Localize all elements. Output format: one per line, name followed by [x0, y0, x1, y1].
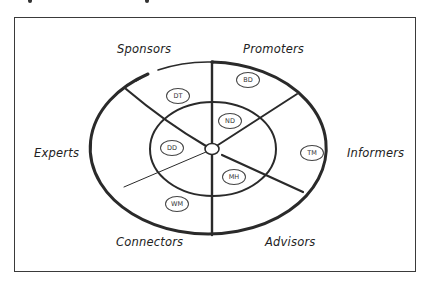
segment-label-experts: Experts [34, 148, 79, 160]
diagram-canvas: Sponsors Promoters Informers Advisors Co… [0, 0, 432, 290]
person-tag-tm: TM [300, 145, 324, 161]
outer-ring-thin-arc [158, 62, 212, 70]
center-hub [205, 144, 219, 155]
segment-label-sponsors: Sponsors [117, 44, 171, 56]
segment-label-informers: Informers [347, 148, 404, 160]
person-tag-dd: DD [160, 140, 184, 156]
person-tag-wm: WM [165, 196, 189, 212]
person-tag-dt: DT [166, 88, 190, 104]
divider-lower-left [124, 152, 206, 187]
segment-label-promoters: Promoters [243, 44, 304, 56]
stakeholder-wheel [0, 0, 432, 290]
segment-label-connectors: Connectors [116, 237, 183, 249]
person-tag-bd: BD [236, 72, 260, 88]
person-tag-mh: MH [222, 169, 246, 185]
person-tag-nd: ND [218, 113, 242, 129]
segment-label-advisors: Advisors [265, 237, 316, 249]
